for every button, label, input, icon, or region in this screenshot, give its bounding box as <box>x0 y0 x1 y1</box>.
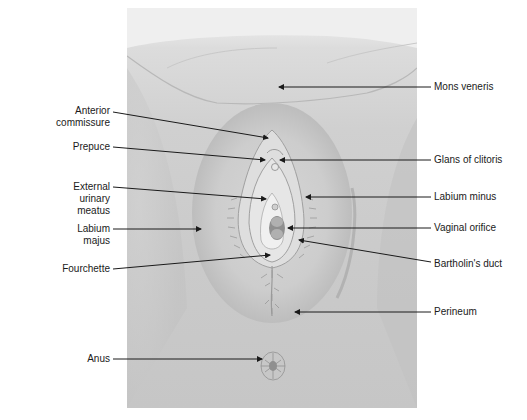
label-labium-minus: Labium minus <box>434 191 496 203</box>
label-anterior-commissure: Anteriorcommissure <box>56 105 110 129</box>
label-line: Mons veneris <box>434 81 493 93</box>
label-perineum: Perineum <box>434 306 477 318</box>
label-anus: Anus <box>87 353 110 365</box>
label-line: Fourchette <box>62 263 110 275</box>
label-line: Labium <box>77 223 110 235</box>
label-line: meatus <box>73 205 110 217</box>
label-line: Bartholin's duct <box>434 258 502 270</box>
label-line: majus <box>77 235 110 247</box>
label-line: commissure <box>56 117 110 129</box>
label-prepuce: Prepuce <box>73 141 110 153</box>
label-external-urinary-meatus: Externalurinarymeatus <box>73 181 110 217</box>
illustration-panel <box>127 8 417 408</box>
label-line: External <box>73 181 110 193</box>
label-line: Anterior <box>56 105 110 117</box>
label-line: Glans of clitoris <box>434 154 502 166</box>
label-line: Prepuce <box>73 141 110 153</box>
anatomy-illustration <box>127 8 417 408</box>
label-mons-veneris: Mons veneris <box>434 81 493 93</box>
label-glans-of-clitoris: Glans of clitoris <box>434 154 502 166</box>
label-line: Vaginal orifice <box>434 222 496 234</box>
label-line: urinary <box>73 193 110 205</box>
label-fourchette: Fourchette <box>62 263 110 275</box>
label-labium-majus: Labiummajus <box>77 223 110 247</box>
label-bartholins-duct: Bartholin's duct <box>434 258 502 270</box>
label-line: Anus <box>87 353 110 365</box>
label-vaginal-orifice: Vaginal orifice <box>434 222 496 234</box>
label-line: Labium minus <box>434 191 496 203</box>
label-line: Perineum <box>434 306 477 318</box>
